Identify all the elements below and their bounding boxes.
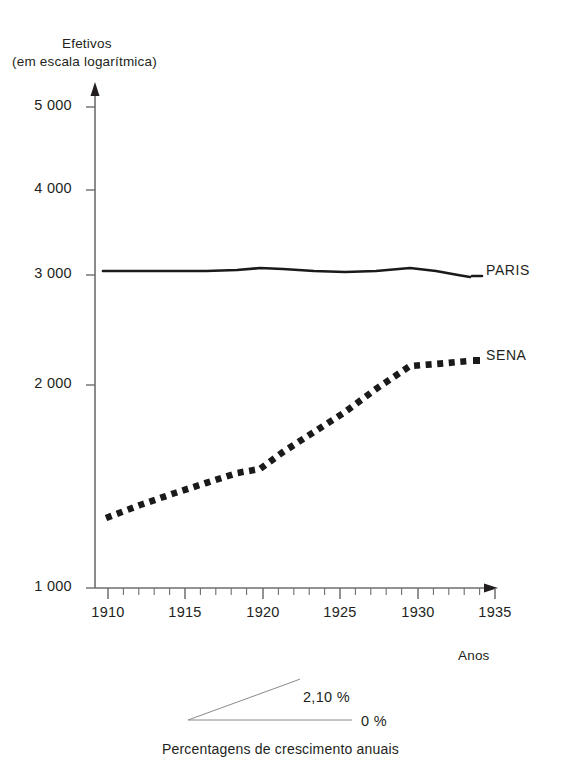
y-tick-label: 4 000 [6, 180, 72, 196]
wedge-lower-label: 0 % [361, 713, 387, 729]
series-line-sena [106, 361, 470, 518]
y-tick-label: 3 000 [6, 265, 72, 281]
y-axis [86, 82, 100, 588]
x-tick-label: 1910 [80, 604, 136, 620]
wedge-caption: Percentagens de crescimento anuais [0, 741, 561, 757]
chart-figure: Efetivos (em escala logarítmica) [0, 0, 561, 776]
x-axis [95, 584, 498, 600]
y-tick-label: 5 000 [6, 97, 72, 113]
x-axis-title: Anos [458, 648, 490, 663]
legend-mark-sena [473, 357, 480, 364]
x-tick-label: 1935 [467, 604, 523, 620]
series-label-paris: PARIS [486, 262, 530, 278]
y-tick-label: 1 000 [6, 578, 72, 594]
wedge-upper-label: 2,10 % [303, 689, 350, 705]
x-tick-label: 1915 [157, 604, 213, 620]
yaxis-title-line-1: Efetivos [62, 36, 112, 51]
x-tick-label: 1920 [235, 604, 291, 620]
y-tick-label: 2 000 [6, 375, 72, 391]
yaxis-title-line-2: (em escala logarítmica) [12, 54, 157, 69]
x-tick-label: 1925 [312, 604, 368, 620]
series-label-sena: SENA [486, 347, 527, 363]
series-line-paris [103, 268, 470, 277]
x-tick-label: 1930 [390, 604, 446, 620]
